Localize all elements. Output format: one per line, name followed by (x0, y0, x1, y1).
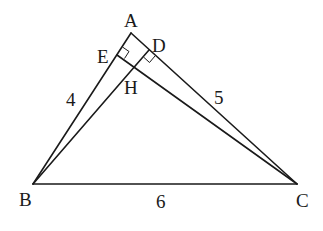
altitude-bd (33, 50, 149, 184)
label-h: H (124, 77, 138, 98)
triangle-diagram: A B C D E H 4 5 6 (0, 0, 323, 231)
label-a: A (124, 10, 138, 31)
length-ab: 4 (66, 89, 76, 110)
label-d: D (152, 35, 166, 56)
right-angle-mark-e (123, 47, 130, 59)
right-angle-mark-d (144, 56, 156, 63)
length-bc: 6 (156, 191, 166, 212)
label-b: B (19, 189, 32, 210)
label-e: E (97, 46, 109, 67)
label-c: C (296, 190, 309, 211)
altitude-ce (117, 55, 297, 184)
length-ac: 5 (214, 87, 224, 108)
side-ab (33, 33, 131, 184)
